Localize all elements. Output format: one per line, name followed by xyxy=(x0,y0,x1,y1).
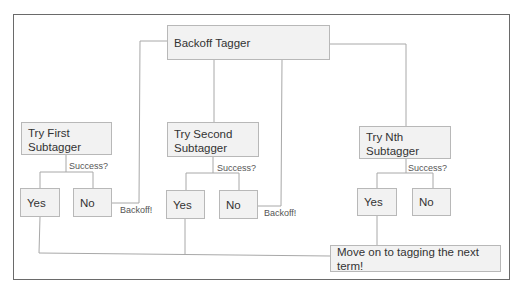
node-label: No xyxy=(226,198,241,212)
no-node: No xyxy=(412,188,451,216)
backoff-label: Backoff! xyxy=(120,205,152,215)
node-label: Backoff Tagger xyxy=(174,36,250,50)
node-label-line1: Try First xyxy=(28,126,105,140)
try-second-subtagger-node: Try Second Subtagger xyxy=(167,122,259,157)
node-label: Yes xyxy=(27,196,46,210)
yes-node: Yes xyxy=(357,188,397,216)
move-on-node: Move on to tagging the next term! xyxy=(330,245,501,272)
node-label-line1: Try Second xyxy=(174,127,252,141)
node-label-line1: Try Nth xyxy=(366,130,444,144)
try-nth-subtagger-node: Try Nth Subtagger xyxy=(359,126,451,159)
no-node: No xyxy=(73,188,112,217)
yes-node: Yes xyxy=(20,188,60,217)
success-question-label: Success? xyxy=(217,163,256,173)
node-label-line2: Subtagger xyxy=(28,140,105,154)
node-label: No xyxy=(80,196,95,210)
node-label: Move on to tagging the next term! xyxy=(337,245,494,273)
backoff-tagger-node: Backoff Tagger xyxy=(167,25,330,60)
no-node: No xyxy=(219,190,258,219)
node-label-line2: Subtagger xyxy=(174,141,252,155)
node-label: No xyxy=(419,195,434,209)
node-label: Yes xyxy=(364,195,383,209)
success-question-label: Success? xyxy=(408,163,447,173)
backoff-label: Backoff! xyxy=(264,208,296,218)
yes-node: Yes xyxy=(166,190,205,219)
node-label: Yes xyxy=(173,198,192,212)
try-first-subtagger-node: Try First Subtagger xyxy=(21,122,112,155)
success-question-label: Success? xyxy=(69,161,108,171)
node-label-line2: Subtagger xyxy=(366,144,444,158)
